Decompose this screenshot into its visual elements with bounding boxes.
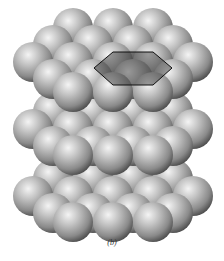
sphere: [93, 135, 133, 175]
hcp-crystal-figure: [0, 0, 224, 261]
sphere: [93, 202, 133, 242]
sphere: [53, 135, 93, 175]
figure-caption: (b): [0, 238, 224, 247]
sphere-layers: [13, 8, 213, 242]
sphere: [53, 72, 93, 112]
sphere: [133, 135, 173, 175]
sphere: [53, 202, 93, 242]
sphere: [133, 202, 173, 242]
